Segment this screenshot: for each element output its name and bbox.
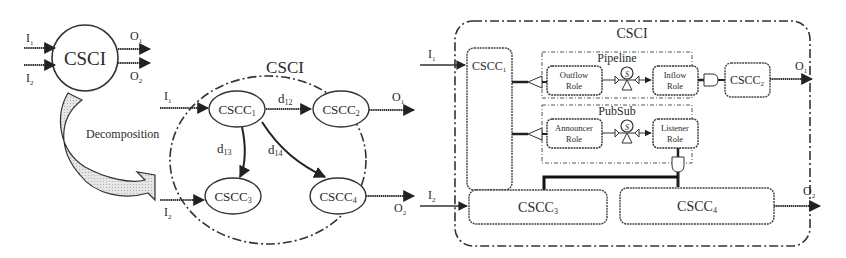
node-cscc1-label: CSCC1 bbox=[218, 102, 255, 118]
pubsub-s-glyph: S bbox=[625, 123, 629, 132]
edge-d13 bbox=[240, 127, 245, 177]
middle-output-o2-label: O2 bbox=[394, 201, 407, 217]
pipeline-s-glyph: S bbox=[625, 70, 629, 79]
pipeline-title: Pipeline bbox=[597, 51, 636, 65]
right-cscc4-label: CSCC4 bbox=[677, 199, 717, 215]
node-cscc2-label: CSCC2 bbox=[322, 102, 359, 118]
right-input-i1-label: I1 bbox=[428, 47, 436, 63]
announcer-role-line1: Announcer bbox=[555, 123, 593, 133]
edge-d12-label: d12 bbox=[278, 91, 293, 107]
right-cscc2-label: CSCC2 bbox=[730, 73, 765, 88]
listener-role-line1: Listener bbox=[661, 123, 689, 133]
middle-output-o1-label: O1 bbox=[392, 90, 405, 106]
input-label-i1: I1 bbox=[26, 31, 34, 47]
right-csci-title: CSCI bbox=[616, 26, 647, 41]
node-cscc3-label: CSCC3 bbox=[214, 189, 251, 205]
middle-input-i2-label: I2 bbox=[164, 205, 172, 221]
middle-input-i1-label: I1 bbox=[164, 89, 172, 105]
node-cscc4-label: CSCC4 bbox=[319, 189, 356, 205]
pubsub-title: PubSub bbox=[598, 104, 635, 118]
edge-d13-label: d13 bbox=[217, 141, 232, 157]
output-label-o1: O1 bbox=[130, 29, 143, 45]
middle-csci-title: CSCI bbox=[266, 58, 304, 77]
inflow-role-line1: Inflow bbox=[664, 70, 688, 80]
input-label-i2: I2 bbox=[26, 71, 34, 87]
architecture-diagram: CSCI I1 I2 O1 O2 Decomposition CSCI CSCC… bbox=[0, 0, 846, 258]
right-cscc3-label: CSCC3 bbox=[518, 200, 558, 216]
csci-label: CSCI bbox=[64, 48, 106, 69]
right-panel: CSCI CSCC1 I1 Pipeline Outflow Role Infl… bbox=[420, 21, 820, 246]
announcer-role-line2: Role bbox=[566, 134, 582, 144]
middle-panel: CSCI CSCC1 CSCC2 CSCC3 CSCC4 d12 d13 d14… bbox=[160, 58, 414, 244]
pipeline-port-icon bbox=[528, 76, 542, 88]
right-output-o2-label: O2 bbox=[803, 184, 816, 200]
listener-port-icon bbox=[672, 157, 684, 172]
output-label-o2: O2 bbox=[130, 69, 143, 85]
inflow-role-line2: Role bbox=[667, 81, 683, 91]
inflow-port-icon bbox=[704, 74, 718, 86]
decomposition-arrow bbox=[61, 93, 155, 200]
pubsub-port-icon bbox=[528, 128, 542, 140]
listener-role-line2: Role bbox=[667, 134, 683, 144]
outflow-role-line2: Role bbox=[566, 81, 582, 91]
decomposition-label: Decomposition bbox=[86, 127, 159, 141]
left-panel: CSCI I1 I2 O1 O2 Decomposition bbox=[24, 25, 159, 200]
outflow-role-line1: Outflow bbox=[560, 70, 589, 80]
right-cscc1-label: CSCC1 bbox=[472, 59, 507, 74]
right-input-i2-label: I2 bbox=[428, 188, 436, 204]
right-output-o1-label: O1 bbox=[795, 59, 808, 75]
